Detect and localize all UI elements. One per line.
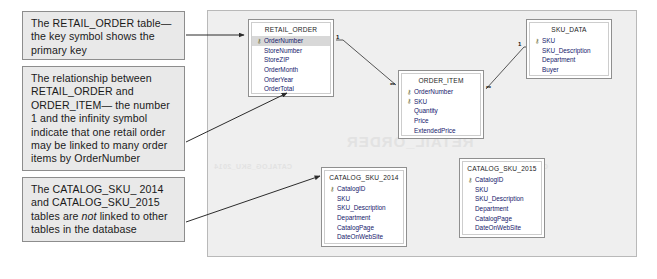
db-field[interactable]: CatalogPage (463, 213, 541, 223)
cardinality-many-order-item-right: ∞ (486, 83, 491, 90)
db-field-name: DateOnWebSite (336, 233, 383, 240)
db-table-retail-order[interactable]: RETAIL_ORDER ⚷ OrderNumber StoreNumber S… (248, 19, 334, 97)
primary-key-icon: ⚷ (466, 177, 474, 183)
db-field[interactable]: Department (463, 204, 541, 214)
primary-key-icon: ⚷ (533, 38, 541, 44)
db-table-title: ORDER_ITEM (402, 74, 480, 87)
db-field[interactable]: DateOnWebSite (325, 232, 403, 242)
db-field[interactable]: ⚷ SKU (530, 36, 608, 46)
db-field-name: Buyer (541, 66, 559, 73)
db-field[interactable]: StoreNumber (252, 46, 330, 56)
db-field-list: ⚷ OrderNumber ⚷ SKU Quantity Price (402, 87, 480, 137)
db-field[interactable]: SKU (325, 194, 403, 204)
db-field-name: SKU (474, 186, 488, 193)
db-field-name: Department (474, 205, 508, 212)
callout-relationship-text: The relationship between RETAIL_ORDER an… (31, 72, 170, 164)
db-field[interactable]: Department (530, 55, 608, 65)
db-field-name: SKU_Description (474, 195, 524, 202)
db-field[interactable]: Buyer (530, 65, 608, 75)
cardinality-many-order-item-left: ∞ (390, 80, 395, 87)
db-field[interactable]: ExtendedPrice (402, 125, 480, 135)
callout-catalog-tables: The CATALOG_SKU_ 2014 and CATALOG_SKU_20… (22, 177, 185, 242)
db-field[interactable]: DateOnWebSite (463, 223, 541, 233)
relationship-diagram-panel: RETAIL_ORDER CATALOG_SKU_2015 CATALOG_SK… (207, 10, 637, 257)
watermark-catalog-sku-2014: CATALOG_SKU_2014 (214, 163, 292, 170)
db-field-name: OrderNumber (263, 37, 303, 44)
callout-primary-key: The RETAIL_ORDER table—the key symbol sh… (22, 11, 185, 60)
db-field[interactable]: Price (402, 116, 480, 126)
cardinality-one-sku-data: 1 (518, 41, 521, 47)
db-table-title: CATALOG_SKU_2014 (325, 171, 403, 184)
db-field[interactable]: Department (325, 213, 403, 223)
primary-key-icon: ⚷ (405, 89, 413, 95)
db-field-name: OrderNumber (413, 88, 453, 95)
db-field-name: OrderMonth (263, 66, 298, 73)
db-field-name: SKU_Description (336, 204, 386, 211)
db-field-list: ⚷ SKU SKU_Description Department Buyer (530, 36, 608, 76)
db-field-name: CatalogID (474, 176, 503, 183)
cardinality-one-retail-order: 1 (336, 34, 339, 40)
db-field-name: StoreNumber (263, 47, 302, 54)
db-field-name: OrderTotal (263, 85, 294, 92)
db-field-name: CatalogPage (336, 224, 374, 231)
db-field[interactable]: SKU_Description (463, 194, 541, 204)
db-field-name: SKU (541, 37, 555, 44)
db-table-order-item[interactable]: ORDER_ITEM ⚷ OrderNumber ⚷ SKU Quantity (398, 70, 484, 139)
db-field[interactable]: ⚷ CatalogID (325, 184, 403, 194)
callout-relationship: The relationship between RETAIL_ORDER an… (22, 66, 185, 171)
callout-catalog-text-emphasis: not (82, 210, 97, 222)
db-field[interactable]: OrderTotal (252, 84, 330, 94)
db-field[interactable]: SKU (463, 185, 541, 195)
db-field-name: Department (541, 56, 575, 63)
db-table-catalog-sku-2015[interactable]: CATALOG_SKU_2015 ⚷ CatalogID SKU SKU_Des… (459, 158, 545, 238)
db-field-name: SKU (336, 195, 350, 202)
db-field[interactable]: StoreZIP (252, 55, 330, 65)
callout-primary-key-text: The RETAIL_ORDER table—the key symbol sh… (31, 17, 171, 56)
db-table-title: CATALOG_SKU_2015 (463, 162, 541, 175)
db-field-name: Price (413, 117, 429, 124)
primary-key-icon: ⚷ (405, 98, 413, 104)
db-field[interactable]: SKU_Description (325, 203, 403, 213)
db-field[interactable]: OrderYear (252, 74, 330, 84)
db-field-name: CatalogID (336, 185, 365, 192)
db-table-catalog-sku-2014[interactable]: CATALOG_SKU_2014 ⚷ CatalogID SKU SKU_Des… (321, 167, 407, 247)
db-field-name: SKU (413, 98, 427, 105)
db-field-name: CatalogPage (474, 215, 512, 222)
db-field-name: Department (336, 214, 370, 221)
db-table-title: RETAIL_ORDER (252, 23, 330, 36)
db-field-name: ExtendedPrice (413, 127, 456, 134)
db-field-list: ⚷ CatalogID SKU SKU_Description Departme… (325, 184, 403, 244)
primary-key-icon: ⚷ (328, 186, 336, 192)
db-field[interactable]: ⚷ OrderNumber (402, 87, 480, 97)
db-field-name: OrderYear (263, 76, 293, 83)
db-field[interactable]: ⚷ OrderNumber (252, 36, 330, 46)
db-field-name: DateOnWebSite (474, 224, 521, 231)
db-field-name: StoreZIP (263, 56, 289, 63)
db-table-sku-data[interactable]: SKU_DATA ⚷ SKU SKU_Description Departmen… (526, 19, 612, 79)
db-field[interactable]: Quantity (402, 106, 480, 116)
db-field[interactable]: ⚷ CatalogID (463, 175, 541, 185)
db-field-list: ⚷ CatalogID SKU SKU_Description Departme… (463, 175, 541, 235)
db-table-title: SKU_DATA (530, 23, 608, 36)
db-field[interactable]: OrderMonth (252, 65, 330, 75)
primary-key-icon: ⚷ (255, 38, 263, 44)
db-field-name: Quantity (413, 107, 438, 114)
db-field-list: ⚷ OrderNumber StoreNumber StoreZIP Order… (252, 36, 330, 96)
diagram-screenshot: The RETAIL_ORDER table—the key symbol sh… (0, 0, 657, 279)
db-field[interactable]: ⚷ SKU (402, 97, 480, 107)
db-field-name: SKU_Description (541, 47, 591, 54)
db-field[interactable]: CatalogPage (325, 222, 403, 232)
db-field[interactable]: SKU_Description (530, 46, 608, 56)
